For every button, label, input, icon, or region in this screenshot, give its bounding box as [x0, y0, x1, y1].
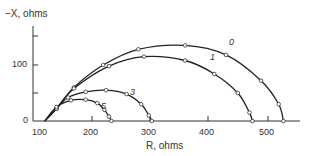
data-point — [224, 53, 228, 57]
data-point — [236, 91, 240, 95]
data-point — [84, 98, 88, 102]
data-point — [282, 119, 286, 123]
data-point — [66, 96, 70, 100]
x-tick-label-400: 400 — [199, 127, 214, 137]
data-point — [107, 115, 111, 119]
x-tick-label-500: 500 — [259, 127, 274, 137]
data-point — [183, 44, 187, 48]
curve-3 — [45, 90, 152, 121]
x-tick-label-100: 100 — [32, 127, 47, 137]
x-tick-label-300: 300 — [141, 127, 156, 137]
x-tick-label-200: 200 — [83, 127, 98, 137]
data-point — [107, 64, 111, 68]
data-point — [248, 111, 252, 115]
data-point — [277, 102, 281, 106]
curve-label-1: 1 — [210, 52, 215, 62]
data-point — [125, 92, 129, 96]
data-point — [96, 101, 100, 105]
y-tick-label-100: 100 — [12, 59, 27, 69]
data-point — [137, 48, 141, 52]
y-axis-label: −X, ohms — [5, 8, 48, 19]
curve-label-3: 3 — [130, 87, 135, 97]
data-point — [150, 119, 154, 123]
y-tick-label-0: 0 — [23, 115, 28, 125]
data-point — [251, 119, 255, 123]
data-point — [147, 114, 151, 118]
curves-group — [45, 44, 286, 123]
data-point — [142, 55, 146, 59]
data-point — [104, 88, 108, 92]
data-point — [84, 90, 88, 94]
data-point — [213, 72, 217, 76]
data-point — [139, 102, 143, 106]
data-point — [183, 59, 187, 63]
curve-label-0: 0 — [229, 37, 234, 47]
data-point — [72, 87, 76, 91]
data-point — [55, 105, 59, 109]
x-axis-label: R, ohms — [146, 140, 183, 151]
data-point — [101, 63, 105, 67]
data-point — [69, 99, 73, 103]
data-point — [259, 79, 263, 83]
curve-label-5: 5 — [101, 101, 106, 111]
data-point — [110, 119, 114, 123]
